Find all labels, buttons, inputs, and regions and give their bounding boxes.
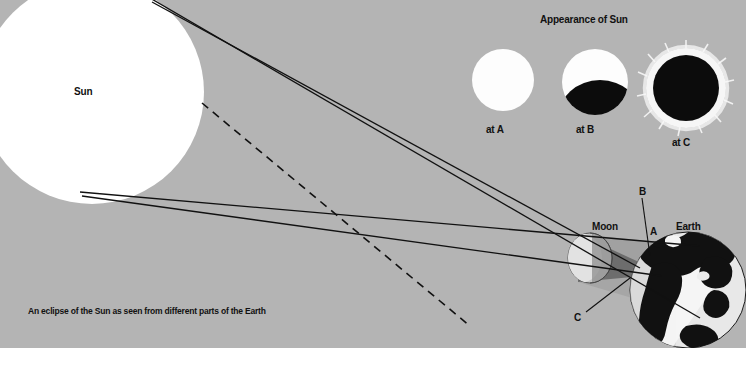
moon-label: Moon <box>592 221 618 233</box>
observer-label-b: B <box>639 186 646 198</box>
sun-view-label-a: at A <box>486 124 504 136</box>
appearance-panel-title: Appearance of Sun <box>540 14 628 26</box>
page-bottom-margin <box>0 348 746 372</box>
sun-label: Sun <box>74 86 92 98</box>
sun-view-label-b: at B <box>576 124 594 136</box>
observer-label-a: A <box>650 226 657 238</box>
eclipse-diagram-figure: Sun Appearance of Sun at A at B at C Moo… <box>0 0 746 372</box>
sun-view-at-a <box>472 49 534 111</box>
earth-label: Earth <box>676 221 701 233</box>
figure-caption: An eclipse of the Sun as seen from diffe… <box>28 306 266 316</box>
observer-label-c: C <box>574 312 581 324</box>
sun-view-label-c: at C <box>672 137 690 149</box>
moon-silhouette-at-c <box>653 55 719 121</box>
